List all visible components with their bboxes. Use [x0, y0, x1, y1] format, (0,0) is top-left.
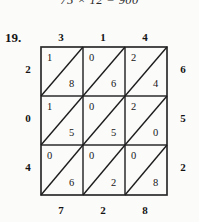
diagonal-r3c2	[83, 145, 125, 195]
previous-problem-equation: 75 × 12 = 900	[0, 0, 199, 8]
top-factor-2: 1	[93, 32, 113, 43]
bottom-sum-1: 7	[51, 205, 71, 216]
diagonal-r1c3	[125, 47, 167, 96]
bottom-sum-2: 2	[93, 205, 113, 216]
bottom-sum-3: 8	[135, 205, 155, 216]
lattice-multiplication-grid: 1 8 0 6 2 4 1 5 0 5 2 0 0 6 0 2 0 8	[40, 46, 168, 196]
diagonal-r2c1	[41, 96, 83, 145]
top-factor-3: 4	[135, 32, 155, 43]
right-sum-2: 5	[176, 113, 190, 124]
diagonal-r2c2	[83, 96, 125, 145]
diagonal-r1c2	[83, 47, 125, 96]
right-sum-1: 6	[176, 64, 190, 75]
right-sum-3: 2	[176, 162, 190, 173]
lattice-grid-lines	[40, 46, 168, 196]
diagonal-r1c1	[41, 47, 83, 96]
left-factor-1: 2	[21, 64, 35, 75]
top-factor-1: 3	[51, 32, 71, 43]
diagonal-r3c3	[125, 145, 167, 195]
diagonal-r3c1	[41, 145, 83, 195]
left-factor-3: 4	[21, 162, 35, 173]
diagonal-r2c3	[125, 96, 167, 145]
left-factor-2: 0	[21, 113, 35, 124]
problem-number-label: 19.	[5, 30, 21, 46]
